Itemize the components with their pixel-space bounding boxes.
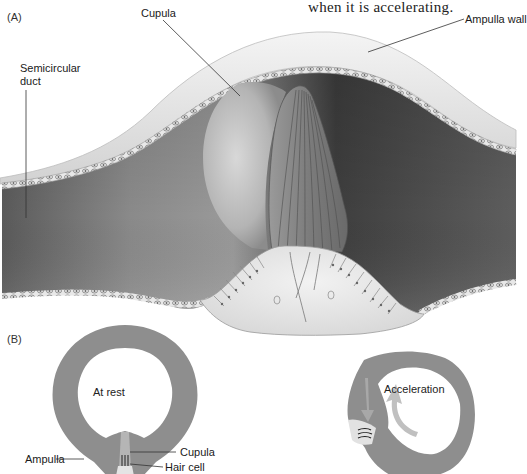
at-rest-cupula-label: Cupula (180, 446, 215, 459)
caption-fragment: when it is accelerating. (308, 0, 453, 16)
acceleration-ring-diagram (348, 351, 475, 474)
panel-b-label: (B) (7, 333, 22, 346)
panel-a-label: (A) (7, 11, 22, 24)
acceleration-title: Acceleration (384, 383, 445, 396)
at-rest-crista (116, 466, 134, 474)
cupula-label: Cupula (141, 7, 176, 20)
semicircular-duct-label-line2: duct (20, 75, 41, 88)
hair-cell-label: Hair cell (165, 461, 205, 474)
semicircular-duct-label-line1: Semicircular (20, 62, 81, 75)
at-rest-ring-diagram (53, 325, 198, 474)
ampulla-label: Ampulla (25, 453, 65, 466)
ampulla-wall-label: Ampulla wall (465, 13, 527, 26)
at-rest-title: At rest (93, 386, 125, 399)
ampulla-wall-callout-line (368, 19, 464, 52)
